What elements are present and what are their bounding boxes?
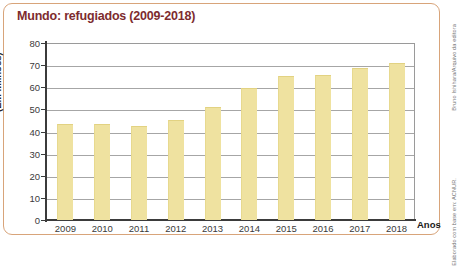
bar-slot <box>194 43 231 220</box>
x-tick-label: 2012 <box>157 223 194 234</box>
y-tick-mark <box>41 65 46 66</box>
image-credit: Bruno Ishihara/Arquivo da editora <box>451 24 457 111</box>
y-tick-label: 80 <box>16 38 40 49</box>
bar-series <box>47 43 415 220</box>
y-tick-label: 70 <box>16 60 40 71</box>
chart-title-container: Mundo: refugiados (2009-2018) <box>14 6 200 25</box>
y-axis-caption: (Em milhões) <box>0 52 3 112</box>
source-credit: Elaborado com base em: ACNUR. <box>451 178 457 266</box>
x-tick-label: 2018 <box>378 223 415 234</box>
bar-slot <box>84 43 121 220</box>
bar-slot <box>378 43 415 220</box>
y-tick-label: 60 <box>16 82 40 93</box>
x-tick-label: 2010 <box>84 223 121 234</box>
x-axis-caption: Anos <box>417 219 441 230</box>
bar <box>205 107 221 220</box>
x-tick-label: 2014 <box>231 223 268 234</box>
y-tick-mark <box>41 87 46 88</box>
y-tick-label: 10 <box>16 192 40 203</box>
bar <box>168 120 184 220</box>
y-tick-label: 0 <box>16 215 40 226</box>
x-tick-label: 2013 <box>194 223 231 234</box>
x-tick-label: 2015 <box>268 223 305 234</box>
y-tick-label: 50 <box>16 104 40 115</box>
bar-slot <box>157 43 194 220</box>
y-tick-mark <box>41 220 46 221</box>
x-tick-label: 2009 <box>47 223 84 234</box>
bar <box>131 126 147 220</box>
y-tick-mark <box>41 43 46 44</box>
y-tick-label: 30 <box>16 148 40 159</box>
y-tick-mark <box>41 154 46 155</box>
bar-slot <box>47 43 84 220</box>
bar <box>278 76 294 220</box>
y-tick-mark <box>41 132 46 133</box>
x-axis-labels: 2009201020112012201320142015201620172018 <box>47 223 415 239</box>
y-tick-mark <box>41 109 46 110</box>
bar <box>57 124 73 220</box>
y-tick-mark <box>41 198 46 199</box>
y-tick-label: 40 <box>16 126 40 137</box>
bar-slot <box>341 43 378 220</box>
bar <box>352 68 368 220</box>
y-axis-labels: 80706050403020100 <box>10 0 40 242</box>
x-tick-label: 2011 <box>121 223 158 234</box>
bar <box>315 75 331 220</box>
bar <box>389 63 405 220</box>
y-tick-mark <box>41 176 46 177</box>
bar-slot <box>305 43 342 220</box>
bar-slot <box>121 43 158 220</box>
bar-slot <box>268 43 305 220</box>
y-tick-label: 20 <box>16 170 40 181</box>
page-title: Mundo: refugiados (2009-2018) <box>17 9 195 23</box>
bar <box>94 124 110 220</box>
bar-slot <box>231 43 268 220</box>
x-tick-label: 2016 <box>305 223 342 234</box>
x-tick-label: 2017 <box>341 223 378 234</box>
bar <box>241 88 257 220</box>
